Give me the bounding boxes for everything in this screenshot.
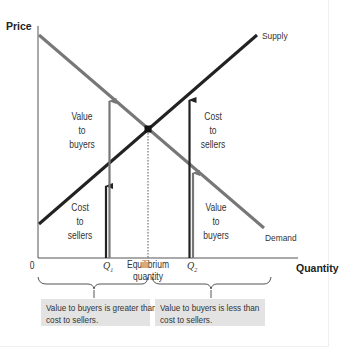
x-axis-title: Quantity: [296, 262, 339, 274]
q2-value-to-buyers-label: Value to buyers: [199, 201, 233, 243]
demand-label: Demand: [265, 232, 297, 243]
q1-cost-to-sellers-label: Cost to sellers: [63, 201, 97, 243]
q2-cost-to-sellers-label: Cost to sellers: [196, 110, 230, 152]
right-callout-box: Value to buyers is less than cost to sel…: [155, 299, 265, 326]
equilibrium-quantity-label: Equilibrium quantity: [123, 259, 174, 283]
equilibrium-point: [145, 126, 152, 133]
q1-label: Q1: [103, 260, 113, 273]
q1-value-to-buyers-label: Value to buyers: [65, 110, 99, 152]
origin-label: 0: [27, 260, 37, 272]
left-callout-box: Value to buyers is greater than cost to …: [41, 299, 150, 326]
q2-label: Q2: [187, 260, 197, 273]
y-axis-title: Price: [6, 20, 32, 32]
supply-label: Supply: [262, 30, 288, 41]
